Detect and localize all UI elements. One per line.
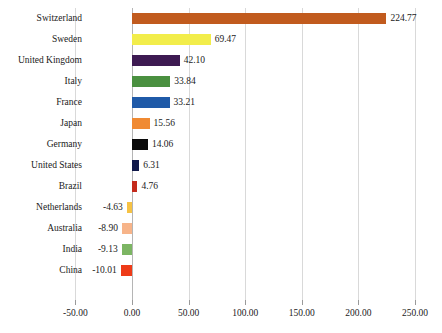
bar-row: India-9.13 [0, 239, 442, 260]
x-axis-tick-label: 150.00 [289, 306, 315, 320]
bar-value-label: 42.10 [184, 50, 205, 71]
category-label: United Kingdom [0, 50, 82, 71]
category-label: Germany [0, 134, 82, 155]
bar-row: Japan15.56 [0, 113, 442, 134]
bar[interactable] [132, 76, 170, 87]
bar-value-label: 33.21 [174, 92, 195, 113]
bar-row: Brazil4.76 [0, 176, 442, 197]
x-axis-tick-mark [302, 300, 303, 305]
bar-value-label: -4.63 [103, 197, 123, 218]
category-label: China [0, 260, 82, 281]
bar[interactable] [122, 223, 132, 234]
bar-row: United States6.31 [0, 155, 442, 176]
bar-value-label: 33.84 [174, 71, 195, 92]
bar-row: Australia-8.90 [0, 218, 442, 239]
bar[interactable] [132, 13, 386, 24]
bar-value-label: 15.56 [154, 113, 175, 134]
x-axis-tick-label: 250.00 [402, 306, 428, 320]
x-axis-tick-label: -50.00 [63, 306, 88, 320]
category-label: France [0, 92, 82, 113]
category-label: Japan [0, 113, 82, 134]
bar-value-label: -9.13 [98, 239, 118, 260]
bar-value-label: 224.77 [390, 8, 416, 29]
bar-value-label: 4.76 [141, 176, 158, 197]
x-axis-tick-mark [245, 300, 246, 305]
category-label: India [0, 239, 82, 260]
category-label: Switzerland [0, 8, 82, 29]
x-axis-tick-mark [132, 300, 133, 305]
bar[interactable] [122, 244, 132, 255]
bar-row: Netherlands-4.63 [0, 197, 442, 218]
category-label: Netherlands [0, 197, 82, 218]
bar[interactable] [132, 181, 137, 192]
x-axis-tick-label: 50.00 [178, 306, 199, 320]
bar[interactable] [132, 139, 148, 150]
bar[interactable] [132, 118, 150, 129]
bar-row: Switzerland224.77 [0, 8, 442, 29]
bar-value-label: 69.47 [215, 29, 236, 50]
bar-row: United Kingdom42.10 [0, 50, 442, 71]
bar-row: Sweden69.47 [0, 29, 442, 50]
x-axis-tick-mark [75, 300, 76, 305]
bar-row: Italy33.84 [0, 71, 442, 92]
bar[interactable] [132, 34, 211, 45]
x-axis-tick-label: 0.00 [124, 306, 141, 320]
category-label: United States [0, 155, 82, 176]
bar[interactable] [127, 202, 132, 213]
category-label: Brazil [0, 176, 82, 197]
bar[interactable] [132, 97, 170, 108]
bar[interactable] [121, 265, 132, 276]
bar-row: China-10.01 [0, 260, 442, 281]
bar-value-label: 14.06 [152, 134, 173, 155]
bar-value-label: -10.01 [92, 260, 117, 281]
x-axis-tick-label: 100.00 [232, 306, 258, 320]
bar-value-label: 6.31 [143, 155, 160, 176]
category-label: Italy [0, 71, 82, 92]
x-axis-tick-mark [415, 300, 416, 305]
bar[interactable] [132, 160, 139, 171]
x-axis-tick-label: 200.00 [345, 306, 371, 320]
x-axis-tick-mark [189, 300, 190, 305]
bar-row: Germany14.06 [0, 134, 442, 155]
bar-row: France33.21 [0, 92, 442, 113]
bar-chart: -50.000.0050.00100.00150.00200.00250.00S… [0, 0, 442, 333]
category-label: Australia [0, 218, 82, 239]
bar-value-label: -8.90 [98, 218, 118, 239]
category-label: Sweden [0, 29, 82, 50]
x-axis-tick-mark [358, 300, 359, 305]
plot-area: -50.000.0050.00100.00150.00200.00250.00S… [0, 0, 442, 333]
bar[interactable] [132, 55, 180, 66]
